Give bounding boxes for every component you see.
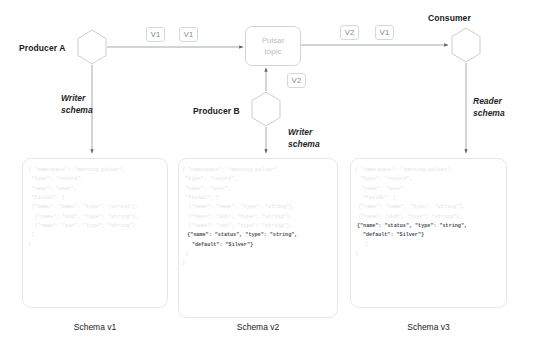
writer-schema-label-a: Writer schema (61, 93, 93, 116)
producer-b-hexagon (252, 92, 280, 126)
consumer-hexagon (452, 28, 480, 62)
producer-b-label: Producer B (193, 106, 240, 116)
code-line: {"name": "status", "type": "string", (355, 222, 507, 231)
consumer-label: Consumer (428, 13, 471, 23)
writer-schema-label-a-line1: Writer (61, 93, 85, 103)
schema-card-v1[interactable]: { "namespace": "manning.pulsar","type": … (22, 158, 168, 308)
version-badge-topic-to-consumer-2: V1 (375, 25, 394, 40)
code-line: { "namespace": "manning.pulsar", (182, 166, 338, 175)
version-badge-a-to-topic-2: V1 (179, 27, 198, 42)
version-badge-topic-to-consumer-1: V2 (340, 25, 359, 40)
code-line: "type": "record", (355, 175, 507, 184)
schema-card-v3[interactable]: { "namespace": "manning.pulsar","type": … (350, 158, 507, 308)
reader-schema-label: Reader schema (473, 96, 505, 119)
producer-a-label: Producer A (19, 43, 66, 53)
code-line: } (355, 250, 507, 259)
pulsar-topic-node[interactable]: Pulsar topic (245, 26, 301, 66)
code-line: "default": "Silver"} (182, 241, 338, 250)
code-line: ] (28, 231, 168, 240)
schema-v3-caption: Schema v3 (350, 322, 507, 332)
code-line: {"name": "ssn", "type": "string"}, (182, 222, 338, 231)
code-line: {"name": "dob", "type": "string"}, (28, 213, 168, 222)
code-line: {"name": "name", "type": "string"}, (182, 203, 338, 212)
schema-v1-code: { "namespace": "manning.pulsar","type": … (23, 166, 168, 250)
code-line: "fields": [ (182, 194, 338, 203)
code-line: {"name": "dob", "type": "string"}, (355, 213, 507, 222)
code-line: "fields": [ (355, 194, 507, 203)
writer-schema-label-b: Writer schema (288, 127, 320, 150)
reader-schema-label-line2: schema (473, 108, 505, 118)
code-line: {"name": "name", "type": "string"}, (355, 203, 507, 212)
pulsar-topic-label-line2: topic (265, 46, 282, 57)
schema-card-v2[interactable]: { "namespace": "manning.pulsar","type": … (178, 158, 338, 318)
code-line: "type": "record", (182, 175, 338, 184)
producer-a-hexagon (78, 30, 106, 64)
schema-v2-caption: Schema v2 (178, 322, 338, 332)
code-line: {"name": "ssn", "type": "string"} (28, 222, 168, 231)
writer-schema-label-b-line1: Writer (288, 127, 312, 137)
schema-v3-code: { "namespace": "manning.pulsar","type": … (351, 166, 507, 259)
code-line: { "namespace": "manning.pulsar", (355, 166, 507, 175)
schema-v2-code: { "namespace": "manning.pulsar","type": … (179, 166, 338, 269)
code-line: } (182, 259, 338, 268)
writer-schema-label-b-line2: schema (288, 139, 320, 149)
code-line: {"name": "dob", "type": "string"}, (182, 213, 338, 222)
code-line: ] (355, 241, 507, 250)
code-line: { "namespace": "manning.pulsar", (28, 166, 168, 175)
diagram-canvas: Pulsar topic Producer A Producer B Consu… (0, 0, 549, 347)
code-line: "name": "user", (355, 185, 507, 194)
code-line: "fields": [ (28, 194, 168, 203)
code-line: "default": "Silver"} (355, 231, 507, 240)
code-line: "name": "user", (182, 185, 338, 194)
pulsar-topic-label-line1: Pulsar (262, 35, 285, 46)
code-line: ] (182, 250, 338, 259)
version-badge-b-to-topic: V2 (287, 73, 306, 88)
writer-schema-label-a-line2: schema (61, 105, 93, 115)
code-line: "type": "record", (28, 175, 168, 184)
version-badge-a-to-topic-1: V1 (146, 27, 165, 42)
code-line: {"name": "status", "type": "string", (182, 231, 338, 240)
code-line: "name": "user", (28, 185, 168, 194)
reader-schema-label-line1: Reader (473, 96, 502, 106)
schema-v1-caption: Schema v1 (22, 322, 168, 332)
code-line: {"name": "name", "type": "string"}, (28, 203, 168, 212)
code-line: } (28, 241, 168, 250)
